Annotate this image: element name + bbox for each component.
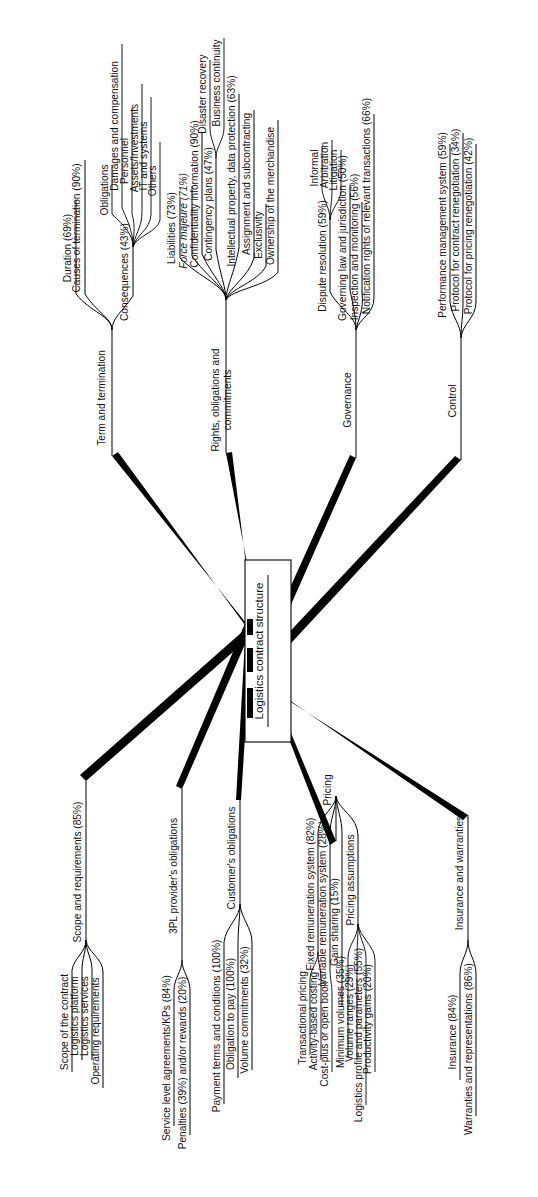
branch-scope-labels: Scope and requirements (85%) Scope of th… bbox=[59, 801, 101, 1084]
label-inspection-and-monitoring: Inspection and monitoring (56%) bbox=[349, 174, 360, 321]
label-obligation-to-pay: Obligation to pay (100%) bbox=[225, 958, 236, 1070]
label-warranties-and-representations: Warranties and representations (86%) bbox=[463, 963, 474, 1135]
stub-1 bbox=[247, 619, 253, 635]
label-contingency-plans: Contingency plans (47%) bbox=[203, 147, 214, 261]
label-payment-terms: Payment terms and conditions (100%) bbox=[211, 940, 222, 1113]
label-volume-commitments: Volume commitments (32%) bbox=[239, 946, 250, 1073]
label-ownership-of-the-merchandise: Ownership of the merchandise bbox=[265, 127, 276, 266]
fixed-remuneration-labels: Transactional pricing Activity-based cos… bbox=[297, 971, 319, 1070]
label-rights-line1: Rights, obligations and bbox=[210, 348, 221, 451]
stub-2 bbox=[247, 648, 253, 672]
label-consequences: Consequences (43%) bbox=[119, 223, 130, 321]
cont-link-business bbox=[216, 128, 224, 158]
label-scope-and-requirements: Scope and requirements (85%) bbox=[72, 801, 83, 942]
label-protocol-pricing-renegotiation: Protocol for pricing renegotiation (42%) bbox=[463, 138, 474, 315]
label-force-majeure: Force majeure (71%) bbox=[178, 173, 189, 269]
label-dispute-resolution: Dispute resolution (59%) bbox=[317, 200, 328, 312]
term-link-duration bbox=[76, 294, 112, 330]
pricing-assumptions-labels: Minimum volumes (35%) Volume ranges (29%… bbox=[335, 948, 373, 1122]
label-activity-based-costing: Activity-based costing bbox=[308, 971, 319, 1070]
root-label: Logistics contract structure bbox=[253, 583, 265, 720]
pricing-link-gain bbox=[336, 796, 342, 834]
label-operating-requirements: Operating requirements bbox=[90, 977, 101, 1084]
dispute-labels: Informal Arbitration Litigation bbox=[309, 142, 339, 191]
label-pricing: Pricing bbox=[322, 774, 333, 805]
branch-term-labels: Term and termination Duration (69%) Caus… bbox=[62, 163, 130, 445]
label-assignment-and-subcontracting: Assignment and subcontracting bbox=[241, 113, 252, 255]
label-rights-line2: commitments bbox=[222, 370, 233, 431]
label-control: Control bbox=[447, 385, 458, 418]
subbranch-variable-remuneration[interactable] bbox=[330, 968, 332, 1072]
label-fixed-remuneration: Fixed remuneration system (82%) bbox=[305, 818, 316, 971]
label-gain-sharing: Gain sharing (15%) bbox=[329, 878, 340, 966]
cust-link-volume bbox=[240, 904, 252, 942]
label-business-continuity: Business continuity bbox=[211, 38, 222, 126]
mindmap-svg: Logistics contract structure Term and te… bbox=[0, 0, 538, 1197]
label-transactional-pricing: Transactional pricing bbox=[297, 971, 308, 1065]
label-penalties-rewards: Penalties (39%) and/or rewards (20%) bbox=[177, 977, 188, 1150]
label-customers-obligations: Customer's obligations bbox=[226, 807, 237, 910]
label-notification-rights: Notification rights of relevant transact… bbox=[361, 98, 372, 314]
branch-rights-labels: Rights, obligations and commitments Liab… bbox=[166, 75, 276, 451]
label-litigation: Litigation bbox=[328, 150, 339, 191]
label-3pl-providers-obligations: 3PL provider's obligations bbox=[168, 818, 179, 934]
label-productivity-gains: Productivity gains (20%) bbox=[362, 964, 373, 1074]
scope-link-platform bbox=[82, 940, 86, 970]
trunk-term bbox=[112, 452, 262, 643]
branch-control-labels: Control Performance management system (5… bbox=[437, 129, 474, 418]
term-link-causes bbox=[85, 294, 112, 330]
mindmap-canvas: Logistics contract structure Term and te… bbox=[0, 0, 538, 1197]
label-pricing-assumptions: Pricing assumptions bbox=[345, 834, 356, 925]
stub-3 bbox=[247, 688, 253, 718]
label-protocol-contract-renegotiation: Protocol for contract renegotiation (34%… bbox=[450, 129, 461, 312]
consequences-labels: Obligations Damages and compensation Per… bbox=[99, 61, 158, 215]
scope-link-operating bbox=[86, 940, 103, 972]
label-liabilities: Liabilities (73%) bbox=[166, 192, 177, 264]
label-confidentiality-information: Confidentiality information (90%) bbox=[189, 120, 200, 267]
rights-link-ownership bbox=[226, 272, 278, 300]
contingency-labels: Disaster recovery Business continuity bbox=[197, 38, 222, 133]
label-term-and-termination: Term and termination bbox=[96, 350, 107, 446]
trunk-control bbox=[264, 456, 461, 668]
label-logistics-services: Logistics services bbox=[79, 976, 90, 1056]
trunk-scope bbox=[80, 625, 258, 781]
label-others: Others bbox=[147, 166, 158, 197]
label-sla-kps: Service level agreements/KPs (84%) bbox=[161, 975, 172, 1141]
label-governance: Governance bbox=[342, 372, 353, 428]
label-disaster-recovery: Disaster recovery bbox=[197, 53, 208, 133]
branch-customer-labels: Customer's obligations Payment terms and… bbox=[211, 807, 250, 1113]
root-connector-stubs bbox=[247, 619, 253, 718]
label-exclusivity: Exclusivity bbox=[253, 210, 264, 258]
label-insurance: Insurance (84%) bbox=[447, 995, 458, 1070]
label-cost-plus-or-open-book: Cost-plus or open book bbox=[319, 980, 330, 1086]
label-intellectual-property: Intellectual property, data protection (… bbox=[226, 75, 237, 266]
label-insurance-and-warranties: Insurance and warranties bbox=[454, 816, 465, 930]
label-performance-management-system: Performance management system (59%) bbox=[437, 132, 448, 318]
var-link-costplus bbox=[330, 968, 332, 994]
label-causes-of-termination: Causes of termination (90%) bbox=[71, 163, 82, 292]
